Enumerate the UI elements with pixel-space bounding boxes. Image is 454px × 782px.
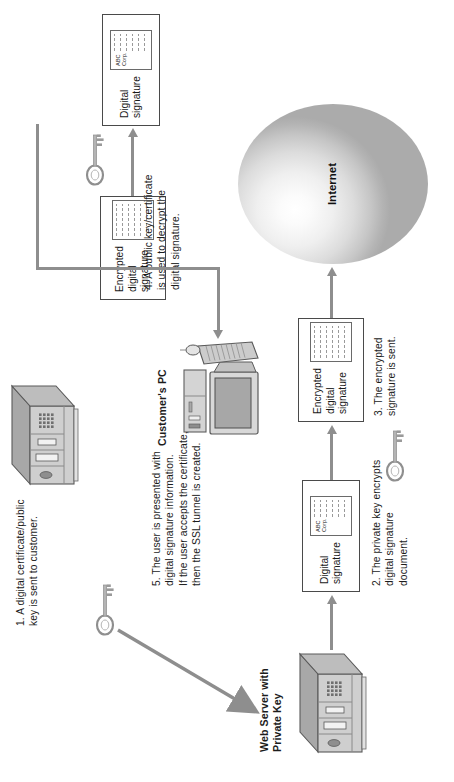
certificate-document-server: ABC Corp. (310, 496, 352, 536)
connector-signature-to-pc-segment-2 (36, 267, 220, 270)
arrowhead-decrypt (128, 128, 138, 137)
certificate-document-client: ABC Corp. (110, 30, 152, 70)
step-5-caption: 5. The user is presented with digital si… (150, 336, 203, 586)
digital-signature-box-server-label: Digital signature (319, 542, 344, 591)
step-3-caption: 3. The encrypted signature is sent. (372, 246, 399, 416)
connector-decrypt (131, 134, 134, 196)
web-server-icon (296, 650, 370, 758)
public-key-icon (82, 132, 108, 186)
certificate-org-name-client: ABC Corp. (115, 52, 127, 66)
digital-signature-box-server: Digital signature ABC Corp. (302, 480, 360, 592)
arrowhead-server-to-signature (327, 595, 337, 604)
arrowhead-encrypted-to-internet (327, 267, 337, 276)
step-4-caption: 4. A public key/certificate is used to d… (142, 104, 182, 290)
step-1-caption: 1. A digital certificate/public key is s… (14, 416, 41, 626)
document-lines (314, 500, 348, 517)
document-lines (114, 34, 148, 51)
encrypted-document-outbound (310, 322, 352, 362)
connector-signature-to-pc-segment-1 (36, 124, 39, 270)
arrowhead-signature-to-encrypted (327, 425, 337, 434)
internet-cloud: Internet (238, 104, 428, 264)
encrypted-signature-box-outbound-label: Encrypted digital signature (312, 368, 349, 421)
document-lines (314, 326, 348, 358)
connector-certificate-to-server (112, 626, 262, 718)
connector-encrypted-to-internet (330, 274, 333, 318)
connector-signature-to-pc-segment-3 (217, 267, 220, 330)
encrypted-signature-box-outbound: Encrypted digital signature (298, 318, 364, 422)
diagram-canvas: Web Server with Private Key Digital sign… (0, 0, 454, 782)
internet-label: Internet (326, 104, 338, 264)
private-key-icon (382, 428, 408, 482)
certificate-org-name: ABC Corp. (315, 518, 327, 532)
digital-signature-box-client: Digital signature ABC Corp. (102, 14, 160, 126)
connector-signature-to-encrypted (330, 432, 333, 480)
digital-signature-box-client-label: Digital signature (119, 76, 144, 125)
connector-server-to-signature (330, 602, 333, 650)
step-2-caption: 2. The private key encrypts digital sign… (370, 396, 410, 586)
